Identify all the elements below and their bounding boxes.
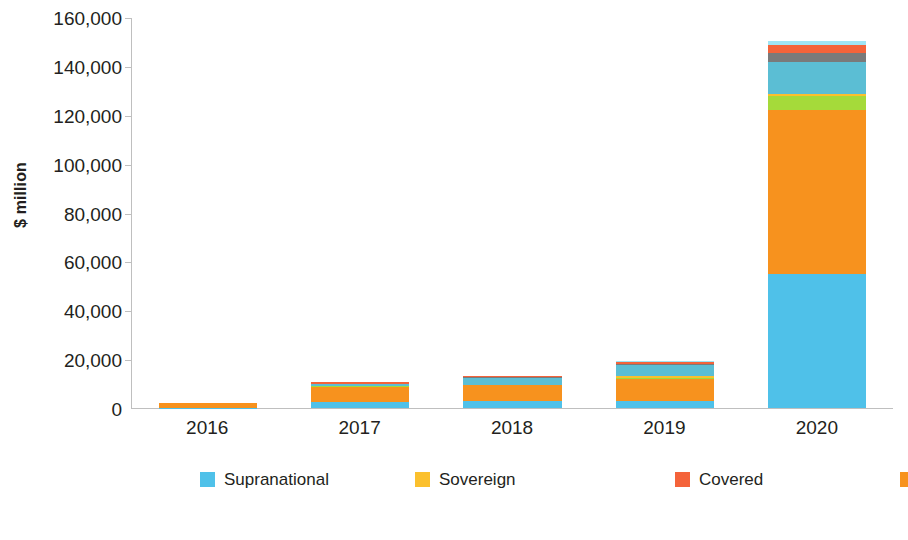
bar-group [132,18,893,408]
bar-segment[interactable] [311,402,409,408]
stacked-bar[interactable] [311,382,409,408]
legend-item[interactable]: Covered [675,466,900,493]
y-axis-tick-labels: 020,00040,00060,00080,000100,000120,0001… [0,0,122,420]
chart-legend: SupranationalSovereignCoveredAgencyFinan… [200,466,900,493]
y-axis-tick-label: 120,000 [4,106,122,125]
x-axis-tick-label: 2018 [436,417,588,439]
bar-segment[interactable] [463,378,561,385]
legend-label: Sovereign [439,471,516,488]
y-axis-tick-label: 0 [4,400,122,419]
bar-slot-2020 [741,18,893,408]
bar-segment[interactable] [768,45,866,53]
bar-slot-2018 [436,18,588,408]
bar-segment[interactable] [768,110,866,274]
bar-slot-2016 [132,18,284,408]
legend-swatch-icon [900,472,908,487]
y-axis-tick-mark [125,67,132,68]
legend-swatch-icon [415,472,430,487]
stacked-bar[interactable] [159,403,257,408]
bar-slot-2017 [284,18,436,408]
y-axis-tick-mark [125,116,132,117]
bar-segment[interactable] [616,401,714,408]
bar-segment[interactable] [311,387,409,402]
bar-segment[interactable] [768,274,866,408]
x-axis-tick-label: 2019 [588,417,740,439]
bar-segment[interactable] [768,53,866,63]
stacked-bar[interactable] [768,41,866,408]
y-axis-tick-label: 20,000 [4,351,122,370]
x-axis-tick-label: 2017 [283,417,435,439]
bar-segment[interactable] [616,365,714,376]
y-axis-tick-mark [125,214,132,215]
legend-label: Covered [699,471,763,488]
x-axis-tick-label: 2020 [741,417,893,439]
y-axis-tick-mark [125,262,132,263]
legend-item[interactable]: Agency [900,466,908,493]
legend-swatch-icon [200,472,215,487]
bar-slot-2019 [589,18,741,408]
y-axis-tick-mark [125,311,132,312]
legend-label: Supranational [224,471,329,488]
plot-area [131,18,893,409]
y-axis-tick-label: 60,000 [4,253,122,272]
x-axis-tick-labels: 20162017201820192020 [131,417,893,439]
x-axis-tick-label: 2016 [131,417,283,439]
legend-swatch-icon [675,472,690,487]
bar-segment[interactable] [616,379,714,401]
legend-item[interactable]: Supranational [200,466,415,493]
stacked-bar-chart: $ million 020,00040,00060,00080,000100,0… [0,0,908,540]
y-axis-tick-label: 100,000 [4,155,122,174]
y-axis-tick-mark [125,165,132,166]
y-axis-tick-label: 160,000 [4,9,122,28]
bar-segment[interactable] [768,96,866,109]
stacked-bar[interactable] [463,376,561,408]
y-axis-tick-mark [125,360,132,361]
bar-segment[interactable] [768,62,866,94]
bar-segment[interactable] [463,385,561,401]
y-axis-tick-label: 40,000 [4,302,122,321]
y-axis-tick-mark [125,18,132,19]
y-axis-tick-label: 140,000 [4,57,122,76]
stacked-bar[interactable] [616,361,714,408]
y-axis-tick-label: 80,000 [4,204,122,223]
bar-segment[interactable] [463,401,561,408]
legend-item[interactable]: Sovereign [415,466,675,493]
